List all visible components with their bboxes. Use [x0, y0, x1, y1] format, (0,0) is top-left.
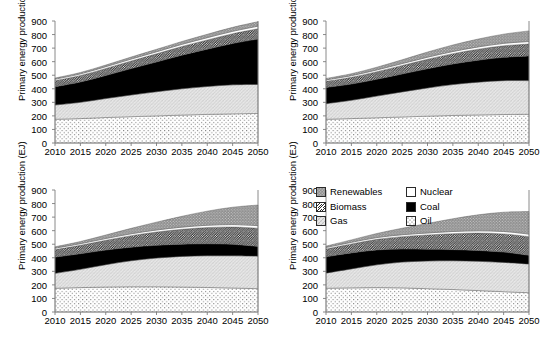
- x-tick-label: 2035: [171, 146, 192, 158]
- x-axis-tick-labels: 201020152020202520302035204020452050: [44, 315, 268, 329]
- y-tick-label: 600: [31, 227, 47, 236]
- y-tick-label: 500: [31, 71, 47, 80]
- biomass-swatch: [316, 202, 326, 212]
- y-tick-label: 200: [31, 281, 47, 290]
- y-axis-tick-labels: 9008007006005004003002001000: [291, 185, 318, 313]
- x-tick-label: 2030: [417, 315, 438, 327]
- y-tick-label: 300: [31, 98, 47, 107]
- y-tick-label: 100: [302, 294, 318, 303]
- y-axis-tick-labels: 9008007006005004003002001000: [20, 185, 47, 313]
- legend-item[interactable]: Coal: [406, 200, 490, 215]
- x-tick-label: 2050: [247, 146, 268, 158]
- y-tick-label: 200: [31, 112, 47, 121]
- x-tick-label: 2030: [417, 146, 438, 158]
- y-tick-label: 800: [302, 31, 318, 40]
- legend-item[interactable]: Oil: [406, 214, 490, 229]
- y-tick-label: 500: [302, 240, 318, 249]
- y-tick-label: 200: [302, 281, 318, 290]
- x-axis-tick-labels: 201020152020202520302035204020452050: [44, 146, 268, 160]
- legend-item[interactable]: Renewables: [316, 185, 400, 200]
- legend-label: Oil: [420, 216, 432, 226]
- x-tick-label: 2030: [146, 315, 167, 327]
- chart-panel-bottom-left: Primary energy production (EJ) 900800700…: [0, 169, 271, 339]
- y-tick-label: 700: [31, 213, 47, 222]
- x-tick-label: 2015: [70, 146, 91, 158]
- x-tick-label: 2010: [315, 146, 336, 158]
- y-tick-label: 400: [31, 254, 47, 263]
- legend-item[interactable]: Biomass: [316, 200, 400, 215]
- x-tick-label: 2010: [44, 315, 65, 327]
- x-tick-label: 2025: [392, 146, 413, 158]
- x-tick-label: 2045: [493, 315, 514, 327]
- y-tick-label: 200: [302, 112, 318, 121]
- x-tick-label: 2020: [95, 146, 116, 158]
- y-tick-label: 900: [302, 17, 318, 26]
- legend-item[interactable]: Gas: [316, 214, 400, 229]
- x-tick-label: 2010: [44, 146, 65, 158]
- y-tick-label: 900: [31, 186, 47, 195]
- y-tick-label: 400: [31, 85, 47, 94]
- y-tick-label: 500: [302, 71, 318, 80]
- y-tick-label: 300: [302, 267, 318, 276]
- chart-panel-top-left: Primary energy production (EJ) 900800700…: [0, 0, 271, 170]
- figure-root: Primary energy production (EJ) 900800700…: [0, 0, 542, 339]
- x-tick-label: 2045: [222, 146, 243, 158]
- y-tick-label: 700: [31, 44, 47, 53]
- x-tick-label: 2020: [366, 315, 387, 327]
- plot-area: [55, 190, 258, 312]
- gas-swatch: [316, 216, 326, 226]
- y-tick-label: 500: [31, 240, 47, 249]
- x-tick-label: 2030: [146, 146, 167, 158]
- y-tick-label: 300: [302, 98, 318, 107]
- x-tick-label: 2035: [442, 315, 463, 327]
- y-tick-label: 400: [302, 85, 318, 94]
- y-tick-label: 100: [31, 125, 47, 134]
- plot-area: [326, 21, 529, 143]
- x-axis-tick-labels: 201020152020202520302035204020452050: [315, 315, 539, 329]
- chart-panel-top-right: Primary energy production (EJ) 900800700…: [271, 0, 542, 170]
- x-tick-label: 2015: [341, 315, 362, 327]
- coal-swatch: [406, 202, 416, 212]
- y-tick-label: 700: [302, 44, 318, 53]
- oil-swatch: [406, 216, 416, 226]
- legend-label: Biomass: [330, 202, 366, 212]
- x-tick-label: 2040: [197, 315, 218, 327]
- x-tick-label: 2040: [468, 315, 489, 327]
- x-tick-label: 2010: [315, 315, 336, 327]
- x-tick-label: 2025: [121, 146, 142, 158]
- y-axis-tick-labels: 9008007006005004003002001000: [20, 16, 47, 144]
- y-axis-tick-labels: 9008007006005004003002001000: [291, 16, 318, 144]
- legend-item[interactable]: Nuclear: [406, 185, 490, 200]
- x-tick-label: 2050: [518, 146, 539, 158]
- x-tick-label: 2045: [493, 146, 514, 158]
- x-axis-tick-labels: 201020152020202520302035204020452050: [315, 146, 539, 160]
- x-tick-label: 2020: [366, 146, 387, 158]
- x-tick-label: 2035: [171, 315, 192, 327]
- y-tick-label: 100: [302, 125, 318, 134]
- legend-label: Renewables: [330, 187, 382, 197]
- y-tick-label: 600: [302, 58, 318, 67]
- legend-label: Gas: [330, 216, 347, 226]
- plot-area: [55, 21, 258, 143]
- x-tick-label: 2015: [70, 315, 91, 327]
- y-tick-label: 100: [31, 294, 47, 303]
- y-tick-label: 800: [31, 31, 47, 40]
- x-tick-label: 2035: [442, 146, 463, 158]
- y-tick-label: 900: [31, 17, 47, 26]
- y-tick-label: 300: [31, 267, 47, 276]
- x-tick-label: 2020: [95, 315, 116, 327]
- legend-label: Nuclear: [420, 187, 453, 197]
- x-tick-label: 2025: [121, 315, 142, 327]
- y-tick-label: 400: [302, 254, 318, 263]
- x-tick-label: 2050: [247, 315, 268, 327]
- x-tick-label: 2015: [341, 146, 362, 158]
- x-tick-label: 2025: [392, 315, 413, 327]
- x-tick-label: 2050: [518, 315, 539, 327]
- x-tick-label: 2045: [222, 315, 243, 327]
- x-tick-label: 2040: [468, 146, 489, 158]
- renewables-swatch: [316, 187, 326, 197]
- y-tick-label: 800: [31, 200, 47, 209]
- y-tick-label: 600: [31, 58, 47, 67]
- chart-panel-bottom-right: Primary energy production (EJ) 900800700…: [271, 169, 542, 339]
- chart-legend: Renewables Nuclear: [316, 185, 491, 229]
